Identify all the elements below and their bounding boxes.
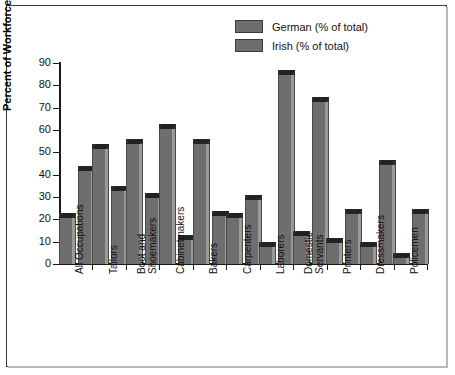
bar-top [259, 242, 276, 247]
bar-top [226, 213, 243, 218]
bar-face [159, 128, 172, 264]
bar-top [159, 124, 176, 129]
bar-face [193, 143, 206, 264]
bar-top [326, 238, 343, 243]
x-axis-label: Tailors [108, 245, 119, 274]
x-axis-label-line: All Occupations [74, 205, 85, 274]
bar-face [59, 217, 72, 264]
x-axis-label-line: Boot and [136, 218, 147, 274]
legend-item: German (% of total) [235, 20, 415, 33]
bar-face [326, 242, 339, 264]
bar-group [92, 63, 125, 264]
legend-label: German (% of total) [272, 21, 368, 33]
bar-german [59, 217, 72, 264]
y-tick-label: 0 [45, 257, 51, 269]
y-tick-label: 10 [39, 235, 51, 247]
legend-item: Irish (% of total) [235, 39, 415, 52]
bar-face [393, 257, 406, 264]
legend-label: Irish (% of total) [272, 40, 349, 52]
x-tick-mark [126, 263, 127, 270]
x-axis-label-line: Shoemakers [147, 218, 158, 274]
x-axis-label: Carpenters [242, 225, 253, 274]
y-tick-label: 90 [39, 56, 51, 68]
chart-legend: German (% of total)Irish (% of total) [235, 20, 415, 58]
chart-page: German (% of total)Irish (% of total) Pe… [0, 0, 455, 375]
x-axis-label: DomesticServants [303, 232, 325, 274]
bar-top [92, 144, 109, 149]
chart-frame: German (% of total)Irish (% of total) Pe… [6, 5, 447, 367]
x-tick-mark [293, 263, 294, 270]
x-axis-label-line: Domestic [303, 232, 314, 274]
bar-top [412, 209, 429, 214]
x-axis-label-line: Dressmakers [375, 215, 386, 274]
x-axis-label: Boot andShoemakers [136, 218, 158, 274]
x-tick-mark [92, 263, 93, 270]
bar-german [259, 246, 272, 264]
x-axis-label: Printers [342, 240, 353, 274]
x-axis-label-line: Policemen [409, 227, 420, 274]
bar-german [226, 217, 239, 264]
x-axis-label: Policemen [409, 227, 420, 274]
x-tick-mark [327, 263, 328, 270]
x-axis-label-line: Servants [314, 232, 325, 274]
x-axis-label: Dressmakers [375, 215, 386, 274]
x-tick-mark [159, 263, 160, 270]
x-tick-mark [226, 263, 227, 270]
x-axis-label: Bakers [208, 243, 219, 274]
x-tick-mark [427, 263, 428, 270]
y-axis-title: Percent of Workforce [1, 0, 13, 111]
bar-german [92, 148, 105, 264]
bar-german [159, 128, 172, 264]
x-axis-label: Laborers [275, 235, 286, 274]
y-tick-label: 30 [39, 190, 51, 202]
x-axis-label: All Occupations [74, 205, 85, 274]
bar-group [193, 63, 226, 264]
x-tick-mark [360, 263, 361, 270]
bar-group [327, 63, 360, 264]
y-tick-label: 80 [39, 78, 51, 90]
x-axis-label-line: Printers [342, 240, 353, 274]
x-axis-label-line: Carpenters [242, 225, 253, 274]
bar-top [193, 139, 210, 144]
y-tick-mark [53, 264, 59, 265]
bar-german [326, 242, 339, 264]
x-tick-mark [394, 263, 395, 270]
legend-swatch-icon [235, 20, 263, 33]
y-tick-label: 20 [39, 212, 51, 224]
bar-face [92, 148, 105, 264]
y-tick-label: 60 [39, 123, 51, 135]
bar-german [193, 143, 206, 264]
x-axis-label-line: Laborers [275, 235, 286, 274]
bar-top [393, 253, 410, 258]
legend-swatch-icon [235, 39, 263, 52]
y-tick-label: 70 [39, 101, 51, 113]
x-tick-mark [260, 263, 261, 270]
bar-german [360, 246, 373, 264]
x-axis-label-line: Cabinetmakers [175, 207, 186, 274]
y-tick-label: 50 [39, 145, 51, 157]
y-tick-label: 40 [39, 168, 51, 180]
bar-german [393, 257, 406, 264]
bar-side [425, 213, 429, 264]
bar-face [259, 246, 272, 264]
x-axis-label: Cabinetmakers [175, 207, 186, 274]
bar-top [126, 139, 143, 144]
bar-face [226, 217, 239, 264]
bar-face [360, 246, 373, 264]
x-tick-mark [193, 263, 194, 270]
x-axis-label-line: Tailors [108, 245, 119, 274]
x-axis-label-line: Bakers [208, 243, 219, 274]
